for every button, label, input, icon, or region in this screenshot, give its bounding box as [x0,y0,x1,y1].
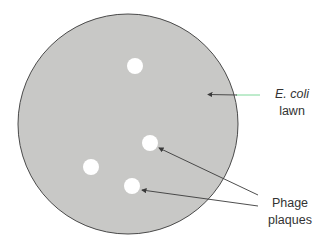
plaque-1 [127,58,143,74]
phage-label-line1: Phage [258,195,322,212]
petri-plate-lawn [18,14,238,234]
ecoli-label-line1: E. coli [262,86,322,103]
plaque-4 [124,178,140,194]
phage-plaques-label: Phage plaques [258,195,322,229]
plaque-3 [83,159,99,175]
plaque-2 [142,135,158,151]
phage-label-line2: plaques [258,212,322,229]
ecoli-arrow [208,95,237,96]
ecoli-lawn-label: E. coli lawn [262,86,322,120]
ecoli-label-line2: lawn [262,103,322,120]
